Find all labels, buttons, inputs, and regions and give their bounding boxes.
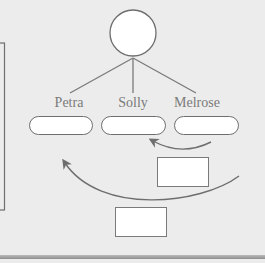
label-solly: Solly bbox=[118, 96, 148, 110]
label-melrose: Melrose bbox=[174, 96, 220, 110]
box-melrose-to-solly bbox=[157, 157, 209, 187]
connector-petra bbox=[70, 58, 133, 93]
diagram-canvas: Petra Solly Melrose bbox=[0, 0, 265, 263]
pill-melrose bbox=[174, 116, 239, 135]
pill-petra bbox=[29, 116, 93, 135]
connector-melrose bbox=[133, 58, 196, 93]
tree-connectors bbox=[70, 58, 196, 93]
bottom-rule bbox=[0, 255, 265, 259]
pill-solly bbox=[101, 116, 166, 135]
box-melrose-to-petra bbox=[115, 207, 167, 237]
root-node-circle bbox=[110, 10, 156, 56]
arrow-melrose-to-solly bbox=[153, 141, 211, 149]
left-bracket bbox=[0, 43, 5, 210]
label-petra: Petra bbox=[55, 96, 84, 110]
arrow-melrose-to-petra bbox=[65, 163, 239, 200]
